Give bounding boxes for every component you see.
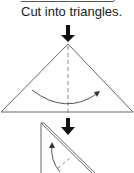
previous-step-edge <box>21 0 117 2</box>
fold-line-dashed <box>58 158 70 168</box>
curved-fold-arrow-icon <box>32 90 100 104</box>
triangle-shape <box>1 44 133 112</box>
diagram-canvas <box>0 0 134 173</box>
origami-instruction-diagram: Cut into triangles. <box>0 0 134 173</box>
instruction-caption: Cut into triangles. <box>21 4 122 19</box>
down-arrow-icon <box>61 25 75 42</box>
down-arrow-icon <box>61 118 75 135</box>
